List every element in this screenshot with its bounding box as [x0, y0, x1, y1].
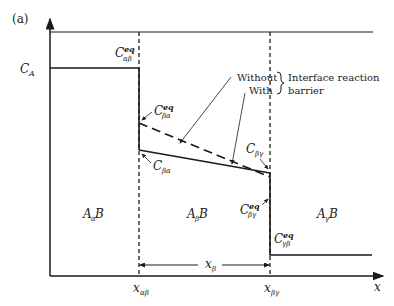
svg-text:x: x	[205, 257, 212, 271]
svg-text:C: C	[20, 62, 29, 76]
svg-text:B: B	[198, 207, 208, 221]
panel-label: (a)	[12, 12, 29, 26]
legend-brace	[277, 72, 284, 94]
c-beta-gamma-arrow	[260, 159, 268, 169]
label-c-beta-alpha-eq: C eq βα	[154, 102, 174, 120]
c-beta-alpha-arrow	[142, 154, 151, 163]
label-x-beta-gamma: x βγ	[264, 281, 280, 297]
svg-text:x: x	[264, 281, 271, 295]
svg-text:B: B	[328, 207, 338, 221]
svg-text:eq: eq	[163, 102, 174, 112]
svg-text:γβ: γβ	[282, 240, 290, 248]
without-leader-arrow	[180, 77, 231, 143]
x-axis-label: x	[374, 280, 381, 294]
label-x-beta: x β	[205, 257, 216, 273]
svg-text:eq: eq	[124, 44, 135, 54]
svg-text:eq: eq	[283, 230, 294, 240]
svg-text:αβ: αβ	[123, 55, 132, 63]
phase-label-gamma: A γ B	[316, 207, 338, 223]
legend-with: With	[249, 85, 273, 96]
with-leader-arrow	[232, 93, 245, 164]
c-beta-gamma-eq-arrow	[262, 199, 268, 205]
label-c-alpha-beta-eq: C eq αβ	[115, 44, 135, 63]
concentration-profile-diagram: (a) x Without With Interface reaction ba…	[0, 0, 394, 306]
svg-text:C: C	[246, 142, 255, 156]
svg-text:αβ: αβ	[140, 289, 149, 297]
legend-group-label: Interface reaction	[288, 72, 380, 83]
legend-without: Without	[237, 72, 277, 83]
label-x-alpha-beta: x αβ	[133, 281, 149, 297]
label-c-a: C A	[20, 62, 35, 78]
svg-text:βα: βα	[161, 112, 171, 120]
svg-text:C: C	[153, 159, 162, 173]
svg-text:eq: eq	[249, 201, 260, 211]
svg-text:A: A	[28, 69, 35, 78]
label-c-beta-gamma-eq: C eq βγ	[240, 201, 260, 219]
svg-text:β: β	[211, 265, 216, 273]
alpha-profile-line	[50, 68, 139, 150]
svg-text:βγ: βγ	[270, 289, 280, 297]
label-c-beta-gamma: C βγ	[246, 142, 264, 158]
label-c-gamma-beta-eq: C eq γβ	[274, 230, 294, 248]
c-beta-alpha-eq-arrow	[142, 112, 152, 120]
svg-text:βγ: βγ	[247, 211, 257, 219]
svg-text:βγ: βγ	[254, 150, 264, 158]
phase-label-beta: A β B	[186, 207, 208, 223]
phase-label-alpha: A α B	[82, 207, 104, 223]
svg-text:B: B	[94, 207, 104, 221]
svg-text:βα: βα	[161, 167, 171, 175]
legend-group-label-2: barrier	[288, 85, 324, 96]
svg-text:x: x	[133, 281, 140, 295]
label-c-beta-alpha: C βα	[153, 159, 171, 175]
